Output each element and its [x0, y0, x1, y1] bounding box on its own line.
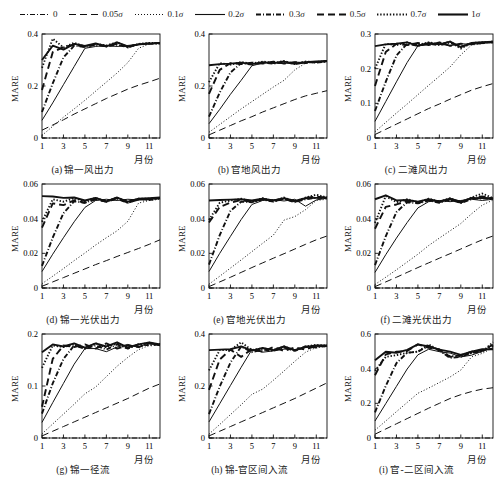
- subplot-caption-h: (h) 锦-官区间入流: [167, 462, 333, 476]
- series-line-0p2sigma: [209, 62, 327, 124]
- series-line-0p2sigma: [375, 199, 493, 272]
- x-tick-label: 9: [126, 141, 130, 151]
- legend-series-01sigma[interactable]: 0.1σ: [135, 9, 184, 20]
- x-tick-label: 11: [312, 441, 320, 451]
- y-axis-label: MARE: [177, 225, 187, 252]
- x-tick-label: 11: [479, 141, 487, 151]
- figure-container: 00.05σ0.1σ0.2σ0.3σ0.5σ0.7σ1σ 00.20.41357…: [0, 0, 500, 478]
- y-axis-label: MARE: [177, 75, 187, 102]
- x-tick-label: 3: [395, 441, 399, 451]
- y-axis-label: MARE: [177, 375, 187, 402]
- subplot-a: 00.20.41357911MARE月份(a) 锦一风出力: [0, 26, 166, 176]
- series-line-0p5sigma: [209, 346, 327, 390]
- legend-series-0[interactable]: 0: [20, 9, 58, 20]
- series-line-0p1sigma: [42, 43, 160, 136]
- x-tick-label: 5: [249, 291, 253, 301]
- legend-series-03sigma[interactable]: 0.3σ: [256, 9, 305, 20]
- legend-label: 0.05σ: [102, 9, 122, 19]
- y-tick-label: 0: [367, 283, 371, 293]
- y-tick-label: 0: [34, 283, 38, 293]
- legend-series-07sigma[interactable]: 0.7σ: [377, 9, 426, 20]
- legend-label: 0.7σ: [410, 9, 426, 19]
- series-line-0p5sigma: [42, 198, 160, 227]
- legend-series-005sigma[interactable]: 0.05σ: [69, 9, 122, 20]
- y-tick-label: 0.06: [23, 179, 38, 189]
- series-line-0p05sigma: [375, 84, 493, 135]
- subplot-f: 00.020.040.061357911MARE月份(f) 二滩光伏出力: [333, 176, 499, 326]
- x-tick-label: 3: [228, 291, 232, 301]
- x-tick-label: 9: [459, 441, 463, 451]
- x-tick-label: 7: [271, 441, 275, 451]
- legend-line-swatch: [377, 9, 407, 20]
- x-tick-label: 3: [61, 441, 65, 451]
- subplot-caption-a: (a) 锦一风出力: [0, 162, 166, 176]
- y-tick-label: 0.02: [356, 248, 371, 258]
- y-tick-label: 0.4: [194, 329, 205, 339]
- x-tick-label: 11: [479, 291, 487, 301]
- x-tick-label: 5: [83, 291, 87, 301]
- legend: 00.05σ0.1σ0.2σ0.3σ0.5σ0.7σ1σ: [0, 4, 500, 24]
- y-axis-label: MARE: [343, 75, 353, 102]
- y-tick-label: 0.04: [356, 214, 372, 224]
- x-tick-label: 5: [249, 141, 253, 151]
- subplot-g: 00.10.21357911MARE月份(g) 锦一径流: [0, 326, 166, 476]
- series-line-0p05sigma: [42, 384, 160, 436]
- series-line-0p7sigma: [375, 342, 493, 370]
- series-line-0p05sigma: [209, 383, 327, 436]
- x-tick-label: 9: [459, 291, 463, 301]
- x-tick-label: 1: [207, 441, 211, 451]
- y-tick-label: 0: [200, 133, 204, 143]
- series-line-0p5sigma: [42, 343, 160, 406]
- y-tick-label: 0.2: [194, 381, 205, 391]
- subplot-i: 00.20.40.61357911MARE月份(i) 官-二区间入流: [333, 326, 499, 476]
- legend-line-swatch: [69, 9, 99, 20]
- series-line-0p3sigma: [42, 198, 160, 266]
- x-tick-label: 7: [438, 291, 442, 301]
- y-tick-label: 0: [200, 283, 204, 293]
- y-tick-label: 0.02: [190, 248, 205, 258]
- y-tick-label: 0.6: [361, 329, 372, 339]
- series-line-0p1sigma: [209, 62, 327, 133]
- y-axis-label: MARE: [343, 375, 353, 402]
- series-line-0p1sigma: [375, 43, 493, 132]
- series-line-0p1sigma: [42, 343, 160, 433]
- y-tick-label: 0: [367, 433, 371, 443]
- x-tick-label: 7: [438, 441, 442, 451]
- legend-line-swatch: [135, 9, 165, 20]
- legend-series-05sigma[interactable]: 0.5σ: [317, 9, 366, 20]
- x-tick-label: 1: [207, 291, 211, 301]
- y-tick-label: 0.4: [361, 364, 372, 374]
- legend-label: 0.2σ: [228, 9, 244, 19]
- series-line-0p5sigma: [209, 61, 327, 94]
- subplot-b: 00.20.41357911MARE月份(b) 官地风出力: [167, 26, 333, 176]
- x-tick-label: 11: [479, 441, 487, 451]
- y-tick-label: 0.06: [190, 179, 205, 189]
- x-tick-label: 5: [416, 441, 420, 451]
- legend-label: 0: [53, 9, 58, 19]
- y-tick-label: 0.2: [27, 81, 38, 91]
- series-line-0p2sigma: [42, 43, 160, 120]
- series-line-0p2sigma: [42, 198, 160, 271]
- x-tick-label: 11: [145, 441, 153, 451]
- y-tick-label: 0.04: [23, 214, 39, 224]
- series-line-0p5sigma: [42, 43, 160, 90]
- y-axis-label: MARE: [10, 225, 20, 252]
- series-line-0p3sigma: [209, 62, 327, 117]
- series-line-1sigma: [375, 195, 493, 201]
- x-tick-label: 11: [312, 291, 320, 301]
- x-tick-label: 5: [249, 441, 253, 451]
- x-tick-label: 9: [292, 441, 296, 451]
- subplot-c: 00.10.20.31357911MARE月份(c) 二滩风出力: [333, 26, 499, 176]
- series-line-0p05sigma: [209, 236, 327, 287]
- x-tick-label: 3: [61, 141, 65, 151]
- x-tick-label: 1: [40, 141, 44, 151]
- series-line-0p2sigma: [209, 198, 327, 271]
- x-tick-label: 3: [395, 141, 399, 151]
- legend-series-02sigma[interactable]: 0.2σ: [195, 9, 244, 20]
- x-tick-label: 1: [373, 441, 377, 451]
- subplot-caption-b: (b) 官地风出力: [167, 162, 333, 176]
- legend-series-1sigma[interactable]: 1σ: [438, 9, 480, 20]
- subplot-d: 00.020.040.061357911MARE月份(d) 锦一光伏出力: [0, 176, 166, 326]
- legend-line-swatch: [195, 9, 225, 20]
- legend-label: 1σ: [471, 9, 480, 19]
